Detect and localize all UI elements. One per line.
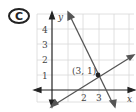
y-axis-arrow-icon: [50, 12, 55, 19]
x-axis-label: x: [127, 94, 132, 104]
tick-y2: 2: [42, 55, 48, 65]
lines: [51, 12, 134, 107]
coordinate-graph: y x 4 3 2 1 2 3 (3, 1): [0, 0, 136, 112]
y-axis-label: y: [57, 12, 64, 22]
arrow-icon: [110, 100, 116, 107]
tick-y3: 3: [42, 40, 48, 50]
point-label: (3, 1): [72, 66, 96, 76]
line-increasing: [54, 57, 131, 105]
arrow-icon: [68, 12, 74, 20]
tick-y4: 4: [42, 25, 48, 35]
x-axis-arrow-right-icon: [128, 88, 135, 93]
tick-x3: 3: [96, 93, 102, 103]
intersection-point: [96, 73, 101, 78]
tick-x2: 2: [81, 93, 87, 103]
tick-y1: 1: [42, 71, 48, 81]
x-axis-arrow-left-icon: [34, 88, 41, 93]
